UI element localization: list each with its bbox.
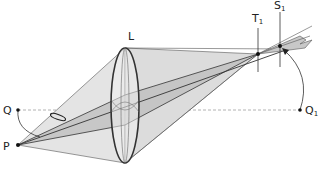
label-Q: Q xyxy=(3,104,12,117)
point-Q1 xyxy=(298,108,302,112)
lens xyxy=(111,48,139,163)
point-S1 xyxy=(278,44,282,48)
astigmatism-diagram: L T1 S1 Q P Q1 xyxy=(0,0,331,170)
point-Q xyxy=(16,108,20,112)
point-P xyxy=(16,143,20,147)
label-L: L xyxy=(128,30,135,43)
point-T1 xyxy=(256,52,260,56)
rotation-arc-right xyxy=(284,50,304,110)
label-P: P xyxy=(3,140,10,153)
label-Q1: Q1 xyxy=(305,104,318,118)
label-S1: S1 xyxy=(274,0,285,13)
label-T1: T1 xyxy=(251,12,263,26)
